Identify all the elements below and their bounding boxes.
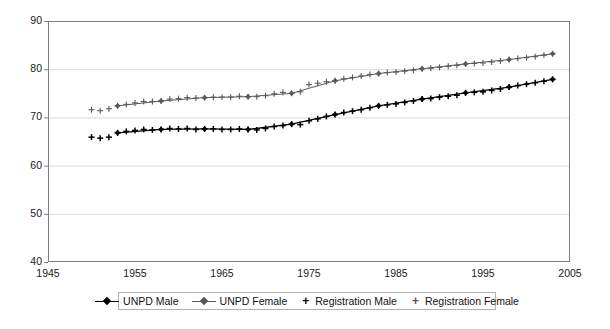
line-chart: 4050607080901945195519651975198519952005… (0, 0, 610, 329)
y-axis-tick-label: 90 (4, 15, 42, 26)
x-axis-tick-label: 2005 (545, 268, 595, 279)
plus-glyph-icon: + (302, 296, 309, 306)
legend-plus-icon: + (410, 296, 421, 306)
x-axis-tick-label: 1985 (371, 268, 421, 279)
chart-legend: UNPD MaleUNPD Female+Registration Male+R… (118, 292, 496, 310)
legend-item[interactable]: UNPD Female (192, 295, 288, 307)
legend-item[interactable]: +Registration Male (300, 295, 397, 307)
x-axis-tick-label: 1965 (197, 268, 247, 279)
y-axis-tick-label: 40 (4, 256, 42, 267)
legend-item[interactable]: UNPD Male (95, 295, 178, 307)
y-axis-tick-label: 60 (4, 160, 42, 171)
legend-line-diamond-icon (192, 296, 216, 306)
legend-plus-icon: + (300, 296, 311, 306)
y-axis-tick-label: 80 (4, 63, 42, 74)
x-axis-tick-label: 1995 (458, 268, 508, 279)
legend-item-label: Registration Male (315, 295, 397, 307)
legend-item[interactable]: +Registration Female (410, 295, 519, 307)
legend-item-label: Registration Female (425, 295, 519, 307)
legend-line-diamond-icon (95, 296, 119, 306)
x-axis-tick-label: 1975 (284, 268, 334, 279)
legend-item-label: UNPD Female (220, 295, 288, 307)
x-axis-tick-label: 1955 (110, 268, 160, 279)
y-axis-tick-label: 70 (4, 111, 42, 122)
legend-diamond-icon (103, 297, 111, 305)
legend-item-label: UNPD Male (123, 295, 178, 307)
plus-glyph-icon: + (412, 296, 419, 306)
y-axis-tick-label: 50 (4, 208, 42, 219)
x-axis-tick-label: 1945 (23, 268, 73, 279)
legend-diamond-icon (199, 297, 207, 305)
plot-background (48, 21, 570, 262)
chart-canvas (0, 0, 610, 329)
